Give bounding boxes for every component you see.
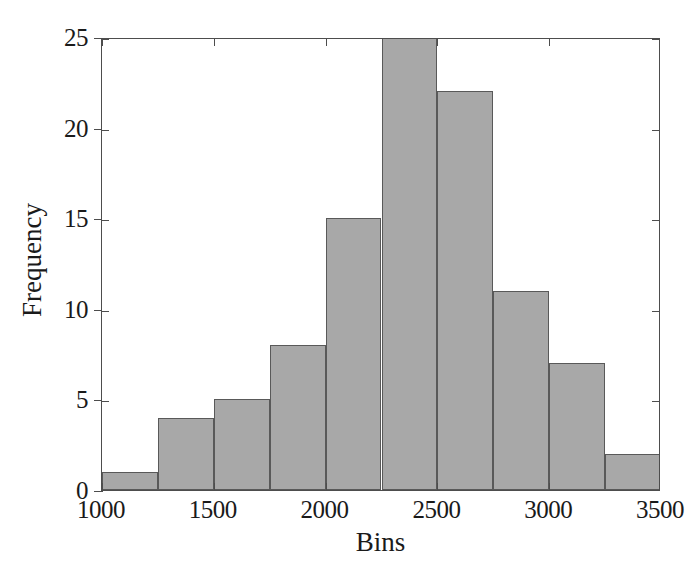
y-axis-inner-tick-mark [102, 220, 109, 221]
histogram-bar [605, 454, 660, 490]
histogram-figure: 0510152025 100015002000250030003500 Bins… [0, 0, 696, 575]
x-axis-top-tick-mark [549, 39, 550, 46]
y-axis-right-tick-mark [652, 401, 659, 402]
y-axis-right-tick-mark [652, 39, 659, 40]
x-axis-tick-label: 1500 [153, 496, 273, 524]
x-axis-inner-tick-mark [549, 483, 550, 490]
y-axis-right-tick-mark [652, 311, 659, 312]
histogram-bar [493, 291, 549, 490]
y-axis-tick-label: 5 [0, 387, 88, 412]
x-axis-top-tick-mark [326, 39, 327, 46]
plot-area [101, 38, 660, 491]
histogram-bar [102, 472, 158, 490]
histogram-bar [270, 345, 326, 490]
histogram-bar [382, 38, 438, 490]
x-axis-inner-tick-mark [437, 483, 438, 490]
x-axis-top-tick-mark [214, 39, 215, 46]
histogram-bar [326, 218, 382, 490]
y-axis-inner-tick-mark [102, 130, 109, 131]
x-axis-title: Bins [101, 527, 660, 557]
x-axis-tick-label: 3500 [600, 496, 696, 524]
histogram-bar [437, 91, 493, 490]
x-axis-tick-label: 1000 [41, 496, 161, 524]
histogram-bar [549, 363, 605, 490]
y-axis-right-tick-mark [652, 220, 659, 221]
x-axis-top-tick-mark [437, 39, 438, 46]
x-axis-inner-tick-mark [326, 483, 327, 490]
x-axis-inner-tick-mark [214, 483, 215, 490]
histogram-bar [158, 418, 214, 490]
x-axis-tick-label: 2000 [265, 496, 385, 524]
x-axis-tick-label: 2500 [376, 496, 496, 524]
y-axis-inner-tick-mark [102, 39, 109, 40]
y-axis-right-tick-mark [652, 130, 659, 131]
x-axis-top-tick-mark [102, 39, 103, 46]
y-axis-title: Frequency [17, 150, 47, 370]
y-axis-inner-tick-mark [102, 311, 109, 312]
x-axis-tick-label: 3000 [488, 496, 608, 524]
y-axis-tick-label: 25 [0, 25, 88, 50]
y-axis-tick-mark [94, 491, 103, 492]
histogram-bar [214, 399, 270, 490]
x-axis-inner-tick-mark [102, 483, 103, 490]
y-axis-tick-label: 20 [0, 116, 88, 141]
y-axis-inner-tick-mark [102, 401, 109, 402]
